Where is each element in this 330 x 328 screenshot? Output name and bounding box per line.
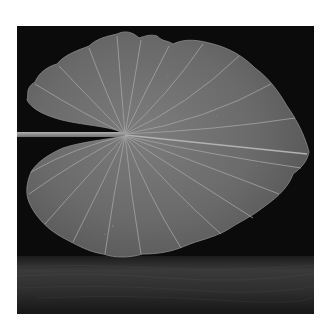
ground-surface <box>17 256 314 314</box>
leaf-photo-illustration <box>17 26 314 314</box>
leaf-photograph <box>17 26 314 314</box>
leaf-stem <box>17 132 129 137</box>
